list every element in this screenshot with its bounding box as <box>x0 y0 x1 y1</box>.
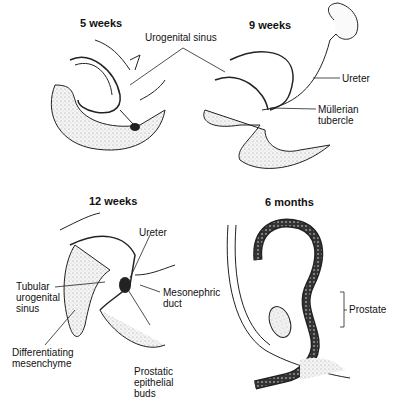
panel-5-weeks-drawing <box>51 40 165 150</box>
leader-line <box>130 48 183 85</box>
panel-title-9-weeks: 9 weeks <box>249 19 291 31</box>
label-ureter-12-weeks: Ureter <box>139 227 167 238</box>
panel-title-12-weeks: 12 weeks <box>89 195 137 207</box>
label-mesonephric-duct: Mesonephric duct <box>163 287 220 309</box>
label-ureter-9-weeks: Ureter <box>342 73 370 84</box>
prostate-bracket <box>340 292 347 327</box>
leader-line <box>183 48 225 72</box>
panel-title-5-weeks: 5 weeks <box>80 17 122 29</box>
leader-line <box>125 285 150 325</box>
label-urogenital-sinus: Urogenital sinus <box>145 32 217 43</box>
panel-6-months-drawing <box>227 223 350 385</box>
leader-line <box>270 108 316 109</box>
label-differentiating-mesenchyme: Differentiating mesenchyme <box>12 347 74 369</box>
leader-line <box>130 235 150 278</box>
label-prostatic-epithelial-buds: Prostatic epithelial buds <box>134 366 173 399</box>
leader-line <box>140 285 160 292</box>
label-tubular-urogenital-sinus: Tubular urogenital sinus <box>16 281 60 314</box>
label-prostate: Prostate <box>349 304 386 315</box>
panel-title-6-months: 6 months <box>265 196 314 208</box>
label-mullerian-tubercle: Müllerian tubercle <box>318 104 359 126</box>
